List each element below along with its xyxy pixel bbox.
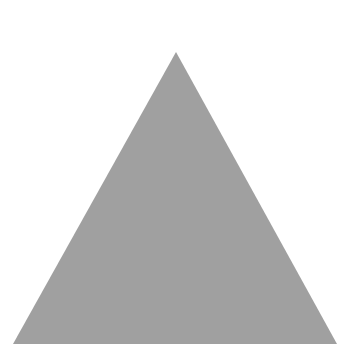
gray-triangle — [13, 52, 337, 344]
triangle-canvas — [0, 0, 360, 354]
